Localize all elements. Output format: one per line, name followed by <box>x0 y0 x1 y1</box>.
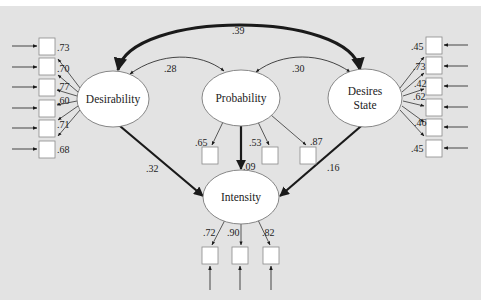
indicator-box <box>426 140 442 157</box>
latent-intensity: Intensity <box>203 170 279 224</box>
svg-text:.72: .72 <box>203 227 216 238</box>
svg-text:.77: .77 <box>57 81 70 92</box>
svg-text:.60: .60 <box>57 95 70 106</box>
svg-text:.42: .42 <box>414 78 427 89</box>
indicator-box <box>426 119 442 136</box>
svg-text:.70: .70 <box>57 63 70 74</box>
svg-text:.45: .45 <box>411 143 424 154</box>
svg-text:.82: .82 <box>262 227 275 238</box>
indicator-box <box>39 141 55 158</box>
indicator-box <box>426 99 442 116</box>
latent-label-intensity: Intensity <box>221 191 261 204</box>
path-value-32: .32 <box>146 163 159 174</box>
covariance-value-30: .30 <box>292 63 305 74</box>
covariance-value-28: .28 <box>164 63 177 74</box>
svg-text:.87: .87 <box>310 136 323 147</box>
indicator-box <box>202 147 218 164</box>
latent-desires-state: Desires State <box>328 69 402 127</box>
svg-text:.62: .62 <box>413 91 426 102</box>
indicator-box <box>39 100 55 117</box>
latent-label-desires: Desires <box>348 85 383 97</box>
svg-text:.71: .71 <box>57 119 70 130</box>
latent-label-state: State <box>354 99 377 111</box>
latent-desirability: Desirability <box>77 71 149 127</box>
indicator-box <box>232 247 248 264</box>
indicator-box <box>39 38 55 55</box>
svg-text:.73: .73 <box>413 61 426 72</box>
svg-text:.53: .53 <box>249 137 262 148</box>
indicator-box <box>426 78 442 95</box>
latent-probability: Probability <box>202 70 280 126</box>
indicator-box <box>262 147 278 164</box>
indicator-box <box>39 58 55 75</box>
indicator-box <box>39 120 55 137</box>
indicator-box <box>426 37 442 54</box>
svg-text:.65: .65 <box>195 137 208 148</box>
svg-text:.46: .46 <box>414 117 427 128</box>
indicator-box <box>39 79 55 96</box>
svg-text:.45: .45 <box>411 41 424 52</box>
latent-label-probability: Probability <box>215 92 266 105</box>
covariance-value-39: .39 <box>232 25 245 36</box>
svg-text:.90: .90 <box>227 227 240 238</box>
indicator-box <box>426 57 442 74</box>
path-value-16: .16 <box>327 162 340 173</box>
svg-text:.73: .73 <box>57 42 70 53</box>
svg-text:.68: .68 <box>57 144 70 155</box>
indicator-box <box>263 247 279 264</box>
latent-label-desirability: Desirability <box>86 93 141 106</box>
indicator-box <box>300 147 316 164</box>
sem-diagram: .39 .28 .30 .32 .09 .16 .73 .70 .77 <box>0 0 486 300</box>
indicator-box <box>202 247 218 264</box>
